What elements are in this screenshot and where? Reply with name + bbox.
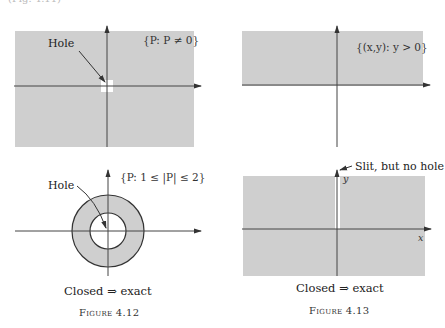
set-label-annulus: {P: 1 ≤ |P| ≤ 2} [120,172,205,183]
caption-figure-4-12: Closed ⇒ exact [64,286,152,298]
top-cut-text: (Fig. 4.11) [8,0,61,4]
figure-label-4-12: Figure 4.12 [79,308,139,318]
caption-figure-4-13: Closed ⇒ exact [296,283,384,295]
shaded-region [243,176,425,276]
hole-label-annulus: Hole [48,180,74,191]
textbook-page: (Fig. 4.11) Hole {P: P ≠ 0} {(x,y): y > … [0,0,445,328]
slit-pointer-arrow [340,166,352,170]
shaded-region [242,31,423,86]
y-axis-label: y [343,174,348,184]
annulus-diagram [15,170,201,276]
set-label-upper-half-plane: {(x,y): y > 0} [356,42,428,53]
hole-label-top: Hole [48,38,74,49]
x-axis-label: x [418,233,423,243]
set-label-punctured-plane: {P: P ≠ 0} [143,35,199,46]
figure-label-4-13: Figure 4.13 [309,306,369,316]
slit-plane-diagram [242,166,431,276]
slit-label: Slit, but no hole [355,161,444,172]
